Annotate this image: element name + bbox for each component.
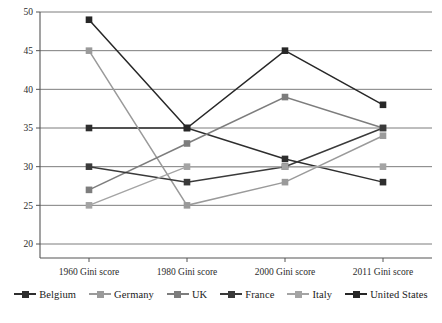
- legend-item-label: Belgium: [39, 289, 76, 300]
- legend-item-belgium[interactable]: Belgium: [14, 289, 76, 300]
- legend-item-united-states[interactable]: United States: [345, 289, 428, 300]
- chart-plot-area: 20253035404550 1960 Gini score1980 Gini …: [0, 0, 442, 282]
- svg-text:50: 50: [24, 7, 34, 17]
- legend-swatch-icon: [89, 290, 111, 299]
- legend-item-germany[interactable]: Germany: [89, 289, 154, 300]
- legend-item-label: Germany: [114, 289, 154, 300]
- chart-legend: BelgiumGermanyUKFranceItalyUnited States: [0, 284, 442, 304]
- legend-swatch-icon: [167, 290, 189, 299]
- legend-item-italy[interactable]: Italy: [287, 289, 332, 300]
- legend-swatch-icon: [14, 290, 36, 299]
- svg-text:45: 45: [24, 46, 34, 56]
- legend-swatch-icon: [220, 290, 242, 299]
- data-series-markers: [86, 16, 387, 208]
- line-chart: 20253035404550 1960 Gini score1980 Gini …: [0, 0, 442, 282]
- svg-text:30: 30: [24, 162, 34, 172]
- legend-item-france[interactable]: France: [220, 289, 274, 300]
- legend-swatch-icon: [345, 290, 367, 299]
- y-tick-labels: 20253035404550: [24, 7, 34, 249]
- svg-text:25: 25: [24, 201, 34, 211]
- svg-text:2000 Gini score: 2000 Gini score: [255, 267, 316, 277]
- svg-text:40: 40: [24, 85, 34, 95]
- legend-item-uk[interactable]: UK: [167, 289, 207, 300]
- figure: 20253035404550 1960 Gini score1980 Gini …: [0, 0, 442, 323]
- svg-text:20: 20: [24, 239, 34, 249]
- legend-item-label: Italy: [312, 289, 332, 300]
- svg-text:1980 Gini score: 1980 Gini score: [157, 267, 218, 277]
- x-axis: [40, 258, 432, 262]
- legend-item-label: United States: [370, 289, 428, 300]
- data-series-lines: [89, 20, 383, 206]
- svg-text:35: 35: [24, 123, 34, 133]
- x-tick-labels: 1960 Gini score1980 Gini score2000 Gini …: [59, 267, 414, 277]
- legend-item-label: UK: [192, 289, 207, 300]
- legend-item-label: France: [245, 289, 274, 300]
- svg-text:2011 Gini score: 2011 Gini score: [353, 267, 413, 277]
- legend-swatch-icon: [287, 290, 309, 299]
- svg-text:1960 Gini score: 1960 Gini score: [59, 267, 120, 277]
- y-axis: [36, 12, 40, 258]
